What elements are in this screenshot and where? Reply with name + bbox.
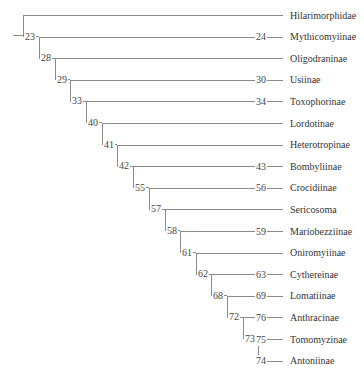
tip-support-label: 59: [255, 226, 267, 238]
tip-support-label: 24: [255, 31, 267, 43]
tip-label: Antoniinae: [290, 355, 334, 367]
tip-support-label: 76: [255, 312, 267, 324]
node-support-label: 62: [197, 268, 209, 280]
tip-label: Bombyliinae: [290, 161, 342, 173]
tip-label: Cythereinae: [290, 269, 338, 281]
tip-label: Heterotropinae: [290, 139, 350, 151]
tip-label: Sericosoma: [290, 204, 337, 216]
tip-label: Toxophorinae: [290, 96, 345, 108]
tip-label: Lordotinae: [290, 118, 334, 130]
tip-label: Lomatiinae: [290, 290, 336, 302]
node-support-label: 23: [24, 31, 36, 43]
node-support-label: 58: [166, 225, 178, 237]
node-support-label: 42: [118, 160, 130, 172]
tip-label: Usiinae: [290, 74, 321, 86]
tip-label: Mariobezziinae: [290, 226, 352, 238]
tip-support-label: 75: [255, 334, 267, 346]
tip-label: Tomomyzinae: [290, 334, 347, 346]
tip-label: Oniromyiinae: [290, 247, 346, 259]
node-support-label: 28: [40, 52, 52, 64]
tip-label: Hilarimorphidae: [290, 10, 356, 22]
tip-label: Crocidiinae: [290, 182, 337, 194]
tip-label: Anthracinae: [290, 312, 339, 324]
tip-label: Mythicomyiinae: [290, 31, 356, 43]
tip-support-label: 30: [255, 74, 267, 86]
tip-support-label: 43: [255, 161, 267, 173]
tip-support-label: 63: [255, 269, 267, 281]
node-support-label: 29: [56, 74, 68, 86]
node-support-label: 61: [181, 247, 193, 259]
node-support-label: 33: [71, 95, 83, 107]
node-support-label: 72: [228, 311, 240, 323]
tip-support-label: 74: [255, 355, 267, 367]
tip-support-label: 56: [255, 182, 267, 194]
node-support-label: 41: [103, 139, 115, 151]
node-support-label: 55: [134, 182, 146, 194]
tip-support-label: 34: [255, 96, 267, 108]
node-support-label: 40: [87, 117, 99, 129]
node-support-label: 57: [150, 203, 162, 215]
node-support-label: 68: [212, 290, 224, 302]
tip-label: Oligodraninae: [290, 53, 347, 65]
tip-support-label: 69: [255, 290, 267, 302]
